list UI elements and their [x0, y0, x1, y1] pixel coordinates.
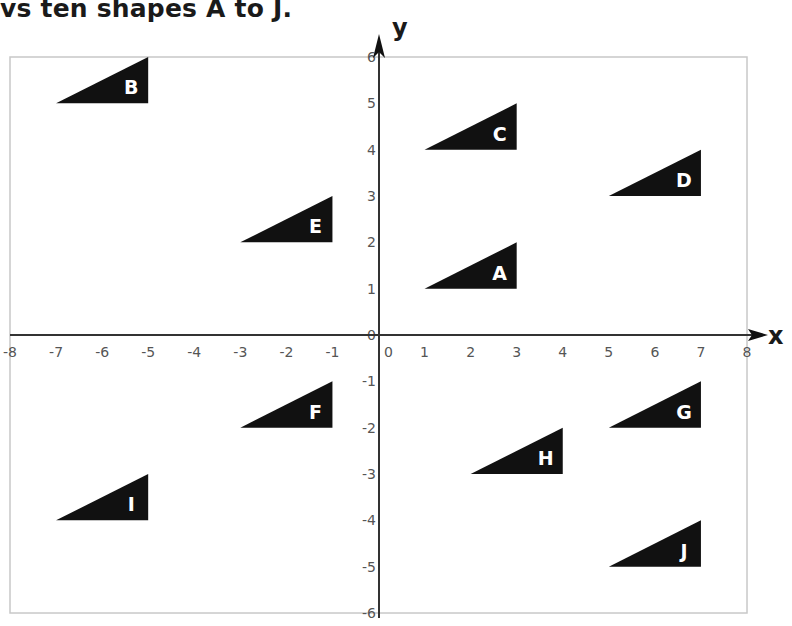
- shape-e: E: [240, 196, 332, 242]
- shape-c: C: [425, 103, 517, 149]
- shape-label: F: [309, 401, 322, 423]
- x-tick-label: -4: [187, 344, 201, 360]
- x-tick-label: 6: [650, 344, 659, 360]
- x-tick-label: -6: [95, 344, 109, 360]
- shape-j: J: [609, 520, 701, 566]
- shape-h: H: [471, 428, 563, 474]
- y-tick-label: -1: [362, 373, 376, 389]
- x-tick-label: 7: [696, 344, 705, 360]
- x-tick-label: 5: [604, 344, 613, 360]
- x-tick-label: -1: [325, 344, 339, 360]
- x-tick-label: 3: [512, 344, 521, 360]
- y-tick-label: -5: [362, 559, 376, 575]
- shape-label: I: [128, 493, 135, 515]
- shape-label: G: [676, 401, 692, 423]
- x-tick-label: -8: [3, 344, 17, 360]
- y-tick-label: -3: [362, 466, 376, 482]
- shape-b: B: [56, 57, 148, 103]
- y-tick-label: -6: [362, 605, 376, 621]
- x-tick-label: 2: [466, 344, 475, 360]
- x-tick-label: -7: [49, 344, 63, 360]
- y-tick-label: 5: [367, 95, 376, 111]
- shape-label: H: [538, 447, 554, 469]
- shape-label: C: [493, 123, 507, 145]
- x-tick-label: 8: [743, 344, 752, 360]
- x-tick-label: -2: [279, 344, 293, 360]
- coordinate-grid: -8-7-6-5-4-3-2-1012345678-6-5-4-3-2-1012…: [0, 0, 792, 626]
- shape-label: A: [492, 262, 507, 284]
- y-tick-label: 4: [367, 142, 376, 158]
- y-tick-label: 2: [367, 234, 376, 250]
- y-tick-label: -2: [362, 420, 376, 436]
- y-tick-label: -4: [362, 512, 376, 528]
- y-tick-label: 3: [367, 188, 376, 204]
- shape-g: G: [609, 381, 701, 427]
- x-axis-label: x: [768, 322, 784, 350]
- shape-label: B: [124, 76, 138, 98]
- shape-label: E: [309, 215, 322, 237]
- shape-label: D: [676, 169, 692, 191]
- y-axis-label: y: [392, 14, 408, 42]
- x-tick-label: 4: [558, 344, 567, 360]
- x-tick-label: -3: [233, 344, 247, 360]
- x-tick-label: 0: [384, 344, 393, 360]
- x-tick-label: 1: [420, 344, 429, 360]
- shape-label: J: [678, 540, 687, 562]
- y-tick-label: 1: [367, 281, 376, 297]
- shape-f: F: [240, 381, 332, 427]
- x-tick-label: -5: [141, 344, 155, 360]
- shape-i: I: [56, 474, 148, 520]
- shape-d: D: [609, 150, 701, 196]
- shape-a: A: [425, 242, 517, 288]
